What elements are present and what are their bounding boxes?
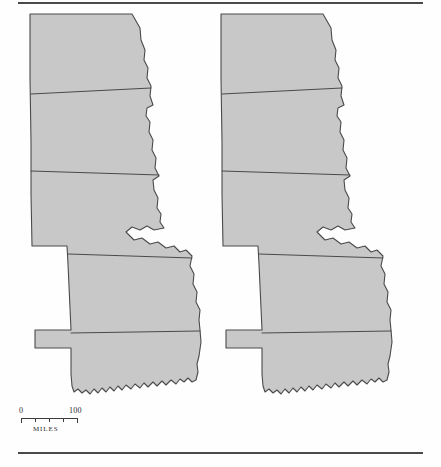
left-map-svg bbox=[14, 8, 214, 408]
left-map bbox=[14, 8, 214, 408]
scale-tick-2 bbox=[49, 418, 50, 422]
right-map-landmass bbox=[221, 14, 392, 394]
right-map bbox=[205, 8, 405, 408]
left-map-landmass bbox=[30, 14, 201, 394]
right-map-svg bbox=[205, 8, 405, 408]
scale-tick-1 bbox=[35, 418, 36, 422]
scale-min-label: 0 bbox=[19, 406, 23, 416]
figure-container: 0 100 MILES bbox=[0, 8, 441, 448]
scale-bar: 0 100 MILES bbox=[19, 406, 99, 440]
scale-max-label: 100 bbox=[69, 406, 82, 416]
great-plains-outline bbox=[221, 14, 392, 394]
scale-tick-3 bbox=[63, 418, 64, 422]
bottom-page-rule bbox=[18, 452, 423, 454]
scale-units-label: MILES bbox=[33, 425, 59, 433]
great-plains-outline bbox=[30, 14, 201, 394]
top-page-rule bbox=[18, 2, 423, 4]
scale-tick-0 bbox=[21, 418, 22, 423]
scale-tick-4 bbox=[77, 418, 78, 423]
